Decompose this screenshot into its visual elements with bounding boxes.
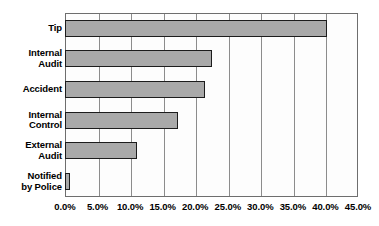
bar[interactable]	[65, 81, 205, 98]
x-tick-label: 0.0%	[54, 201, 75, 213]
bar-slot	[65, 74, 205, 105]
category-label: Accident	[0, 74, 62, 105]
bar-slot	[65, 44, 212, 75]
bar[interactable]	[65, 50, 212, 67]
category-axis-labels: TipInternalAuditAccidentInternalControlE…	[0, 13, 62, 197]
bar-slot	[65, 166, 70, 197]
bar-slot	[65, 13, 327, 44]
bar-slot	[65, 105, 178, 136]
bar[interactable]	[65, 112, 178, 129]
category-label: ExternalAudit	[0, 136, 62, 167]
category-label: Notifiedby Police	[0, 166, 62, 197]
x-tick-label: 40.0%	[312, 201, 338, 213]
category-label-line: Accident	[23, 84, 62, 95]
x-tick-label: 5.0%	[87, 201, 108, 213]
bar-chart: TipInternalAuditAccidentInternalControlE…	[0, 0, 379, 226]
category-label-line: by Police	[21, 182, 62, 193]
x-tick-label: 10.0%	[117, 201, 143, 213]
category-label-line: Audit	[38, 59, 62, 70]
bar[interactable]	[65, 173, 70, 190]
category-label: Tip	[0, 13, 62, 44]
bar[interactable]	[65, 142, 137, 159]
x-tick-label: 15.0%	[149, 201, 175, 213]
x-axis-tick-labels: 0.0%5.0%10.0%15.0%20.0%25.0%30.0%35.0%40…	[65, 201, 358, 219]
bars-layer	[65, 13, 358, 197]
category-label: InternalControl	[0, 105, 62, 136]
category-label-line: Audit	[38, 151, 62, 162]
category-label: InternalAudit	[0, 44, 62, 75]
bar-slot	[65, 136, 137, 167]
x-tick-label: 25.0%	[215, 201, 241, 213]
bar[interactable]	[65, 20, 327, 37]
x-tick-label: 30.0%	[247, 201, 273, 213]
category-label-line: Tip	[48, 23, 62, 34]
category-label-line: Control	[29, 120, 62, 131]
x-tick-label: 35.0%	[280, 201, 306, 213]
x-tick-label: 20.0%	[182, 201, 208, 213]
x-tick-label: 45.0%	[345, 201, 371, 213]
